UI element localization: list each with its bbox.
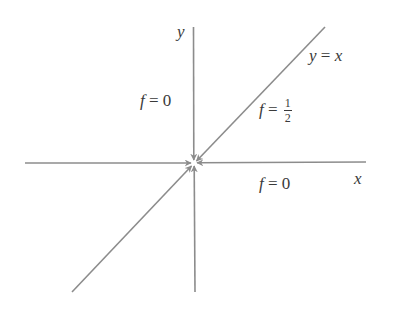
y-axis-bottom	[194, 166, 195, 292]
diagonal-equation-label: y = x	[309, 47, 342, 64]
y-axis-label: y	[177, 23, 185, 40]
diagonal-value-label: f = 1 2	[259, 98, 292, 125]
lower-right-op: =	[268, 174, 278, 193]
fraction: 1 2	[284, 97, 292, 124]
x-axis-label: x	[354, 170, 362, 187]
upper-left-value: 0	[163, 91, 172, 110]
diagonal-eq-rhs: x	[335, 46, 343, 65]
diagonal-eq-op: =	[321, 46, 331, 65]
upper-left-value-label: f = 0	[140, 92, 171, 109]
lower-right-value: 0	[282, 174, 291, 193]
upper-left-var: f	[140, 91, 145, 110]
diagonal-eq-lhs: y	[309, 46, 317, 65]
lower-right-value-label: f = 0	[259, 175, 290, 192]
fraction-denominator: 2	[284, 111, 292, 124]
fraction-numerator: 1	[284, 97, 292, 111]
diagonal-op: =	[268, 100, 278, 119]
lower-right-var: f	[259, 174, 264, 193]
diagonal-var: f	[259, 100, 264, 119]
phase-diagram: y x y = x f = 0 f = 1 2 f = 0	[0, 0, 393, 309]
x-axis-right	[197, 162, 366, 163]
diagonal-upper	[197, 27, 326, 161]
diagonal-lower	[72, 166, 192, 292]
upper-left-op: =	[149, 91, 159, 110]
